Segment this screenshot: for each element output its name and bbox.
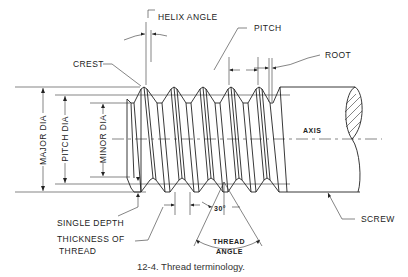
pitch-dia-dimension: PITCH DIA <box>60 96 70 183</box>
thickness-label-line1: THICKNESS OF <box>57 234 125 244</box>
major-dia-label: MAJOR DIA <box>38 115 48 165</box>
crest-leader <box>103 64 141 86</box>
thirty-degree-label: 30° <box>214 205 226 212</box>
figure-caption: 12-4. Thread terminology. <box>137 261 245 272</box>
pitch-callout <box>214 28 258 85</box>
thickness-label-line2: THREAD <box>59 246 96 256</box>
minor-dia-dimension: MINOR DIA <box>98 104 108 176</box>
single-depth-label: SINGLE DEPTH <box>57 218 124 228</box>
screw-leader <box>328 193 355 219</box>
root-label: ROOT <box>325 50 351 60</box>
axis-label: AXIS <box>303 127 321 134</box>
single-depth-callout <box>118 177 146 216</box>
minor-dia-label: MINOR DIA <box>98 115 108 163</box>
pitch-dia-label: PITCH DIA <box>60 116 70 162</box>
thread-angle-label-line1: THREAD <box>213 238 245 245</box>
screw-label: SCREW <box>361 214 395 224</box>
thread-angle-label-line2: ANGLE <box>216 248 243 255</box>
major-dia-dimension: MAJOR DIA <box>38 88 48 191</box>
crest-label: CREST <box>73 59 104 69</box>
screw-break-end <box>346 87 360 192</box>
pitch-label: PITCH <box>254 23 282 33</box>
thickness-callout <box>135 192 200 241</box>
thread-profile-bottom <box>127 178 360 192</box>
helix-angle-label: HELIX ANGLE <box>158 12 218 22</box>
thread-terminology-diagram: AXIS MAJOR DIA PITCH DIA MINOR DIA <box>0 0 408 277</box>
